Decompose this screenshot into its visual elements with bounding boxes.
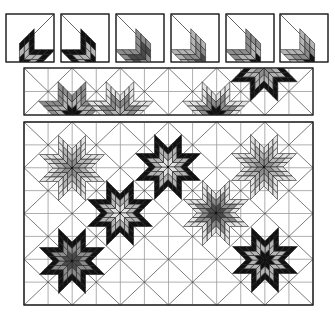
star-diamond xyxy=(205,115,216,120)
arm-block-5 xyxy=(225,14,274,64)
star-center xyxy=(71,260,73,262)
star-center xyxy=(264,259,266,261)
star-diamond xyxy=(54,115,65,120)
assembled-quilt xyxy=(24,122,313,305)
star-diamond xyxy=(61,115,72,120)
star-diamond xyxy=(264,63,275,68)
star-diamond xyxy=(78,115,89,120)
arm-block-3 xyxy=(115,14,164,64)
star-diamond xyxy=(216,115,227,120)
star-diamond xyxy=(133,115,144,120)
star-center xyxy=(215,212,217,214)
star-diamond xyxy=(198,115,209,120)
arm-block-6 xyxy=(279,14,328,64)
quilt-diagram xyxy=(0,0,335,317)
star-diamond xyxy=(48,115,59,120)
arm-block-4 xyxy=(170,14,219,64)
star-diamond xyxy=(246,63,257,68)
arm-blocks-row xyxy=(6,14,328,64)
star-diamond xyxy=(126,115,137,120)
star-diamond xyxy=(253,63,264,68)
arm-block-2 xyxy=(60,14,109,64)
star-diamond xyxy=(277,63,288,68)
star-center xyxy=(167,166,169,168)
star-diamond xyxy=(270,63,281,68)
star-diamond xyxy=(85,115,96,120)
star-diamond xyxy=(192,115,203,120)
star-diamond xyxy=(229,115,240,120)
star-diamond xyxy=(102,115,113,120)
star-diamond xyxy=(222,115,233,120)
star-center xyxy=(119,212,121,214)
star-diamond xyxy=(72,115,83,120)
star-diamond xyxy=(109,115,120,120)
arm-block-1 xyxy=(6,14,55,64)
star-diamond xyxy=(96,115,107,120)
star-diamond xyxy=(120,115,131,120)
star-center xyxy=(263,166,265,168)
star-diamond xyxy=(240,63,251,68)
star-center xyxy=(71,167,73,169)
